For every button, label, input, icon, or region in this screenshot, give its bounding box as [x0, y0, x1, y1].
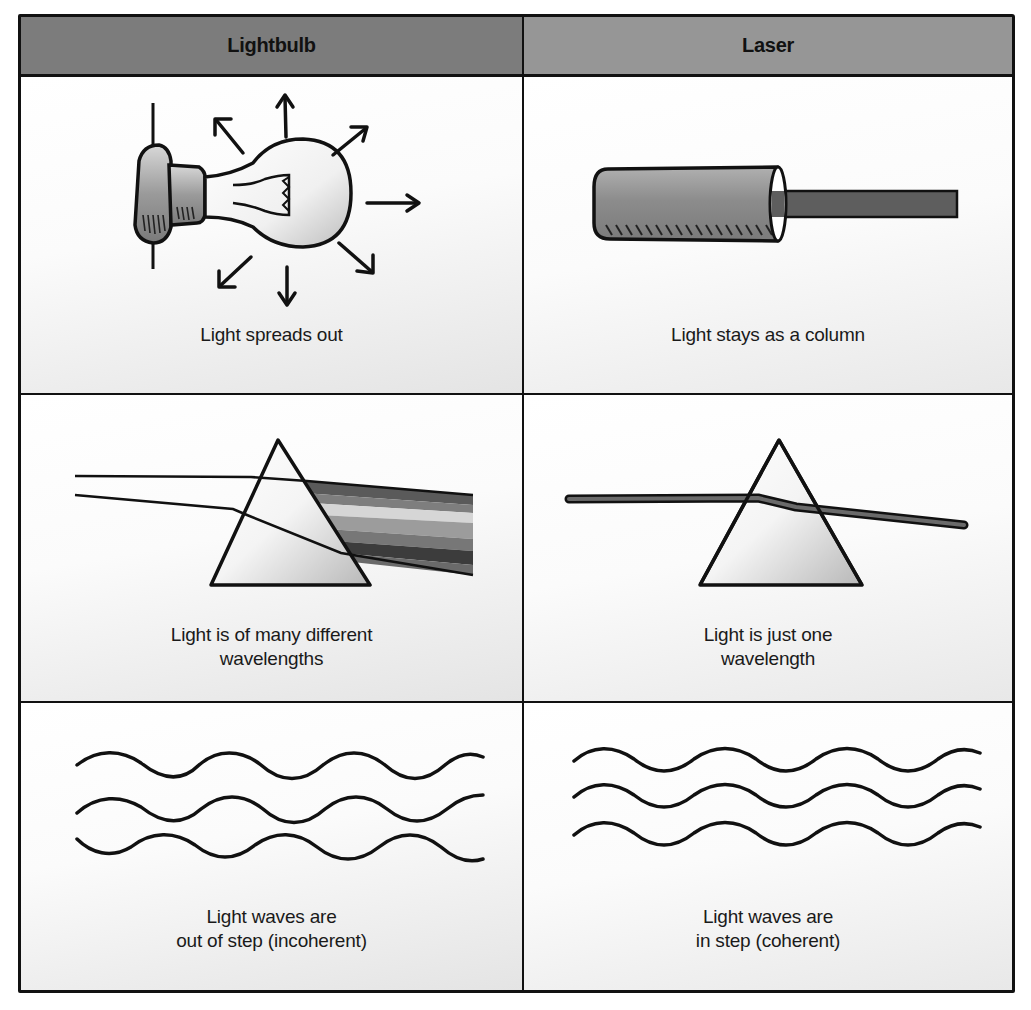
caption-laser-coherence: Light waves are in step (coherent)	[524, 905, 1012, 953]
header-laser-label: Laser	[742, 34, 794, 57]
lightbulb-icon	[21, 77, 524, 395]
laser-tube-icon	[524, 77, 1012, 395]
cell-laser-spread: Light stays as a column	[524, 77, 1012, 395]
comparison-table: Lightbulb Laser	[18, 14, 1015, 993]
cell-laser-wavelength: Light is just one wavelength	[524, 395, 1012, 703]
header-lightbulb: Lightbulb	[21, 17, 524, 77]
cell-lightbulb-spread: Light spreads out	[21, 77, 524, 395]
header-lightbulb-label: Lightbulb	[227, 34, 315, 57]
caption-laser-spread: Light stays as a column	[524, 323, 1012, 347]
header-laser: Laser	[524, 17, 1012, 77]
caption-lightbulb-spread: Light spreads out	[21, 323, 522, 347]
caption-lightbulb-coherence: Light waves are out of step (incoherent)	[21, 905, 522, 953]
cell-laser-coherence: Light waves are in step (coherent)	[524, 703, 1012, 990]
caption-lightbulb-wavelength: Light is of many different wavelengths	[21, 623, 522, 671]
cell-lightbulb-wavelength: Light is of many different wavelengths	[21, 395, 524, 703]
caption-laser-wavelength: Light is just one wavelength	[524, 623, 1012, 671]
cell-lightbulb-coherence: Light waves are out of step (incoherent)	[21, 703, 524, 990]
